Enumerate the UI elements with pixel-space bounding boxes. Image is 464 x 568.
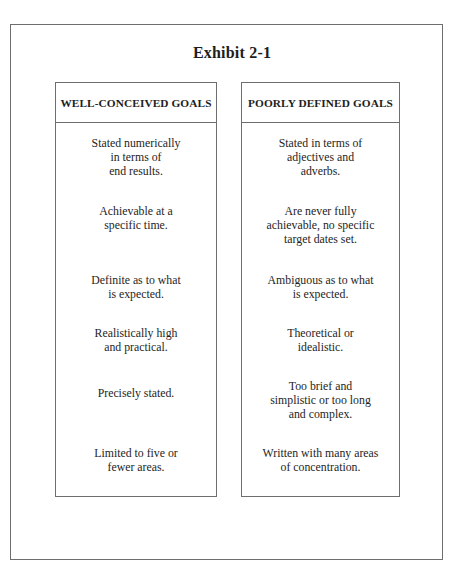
list-item: Too brief and simplistic or too long and…: [242, 379, 399, 421]
list-item: Precisely stated.: [56, 386, 216, 400]
list-item: Definite as to what is expected.: [56, 273, 216, 301]
well-conceived-goals-list: Stated numerically in terms of end resul…: [56, 123, 216, 497]
exhibit-title: Exhibit 2-1: [0, 44, 464, 62]
list-item: Stated in terms of adjectives and adverb…: [242, 136, 399, 178]
list-item: Realistically high and practical.: [56, 326, 216, 354]
poorly-defined-goals-column: POORLY DEFINED GOALS Stated in terms of …: [241, 82, 400, 497]
column-header-poorly-defined: POORLY DEFINED GOALS: [242, 83, 399, 123]
list-item: Ambiguous as to what is expected.: [242, 273, 399, 301]
list-item: Limited to five or fewer areas.: [56, 446, 216, 474]
list-item: Are never fully achievable, no specific …: [242, 204, 399, 246]
well-conceived-goals-column: WELL-CONCEIVED GOALS Stated numerically …: [55, 82, 217, 497]
poorly-defined-goals-list: Stated in terms of adjectives and adverb…: [242, 123, 399, 497]
list-item: Stated numerically in terms of end resul…: [56, 136, 216, 178]
list-item: Written with many areas of concentration…: [242, 446, 399, 474]
column-header-well-conceived: WELL-CONCEIVED GOALS: [56, 83, 216, 123]
list-item: Theoretical or idealistic.: [242, 326, 399, 354]
list-item: Achievable at a specific time.: [56, 204, 216, 232]
